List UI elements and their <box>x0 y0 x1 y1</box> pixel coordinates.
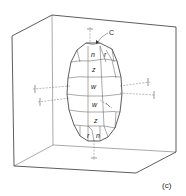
facet-label-top-n: n <box>91 51 95 58</box>
facet-label-bottom-n: n <box>96 132 100 139</box>
figure-caption: (c) <box>162 181 172 190</box>
facet-label-w-lower: w <box>92 101 98 108</box>
facet-label-top-r: r <box>104 51 107 58</box>
pointer-c: C <box>96 29 114 44</box>
pointer-label: C <box>109 29 114 36</box>
facet-label-w-upper: w <box>91 83 97 90</box>
bounding-box <box>12 15 176 173</box>
facet-label-z-lower: z <box>93 117 98 124</box>
facet-label-bottom-r: r <box>87 132 90 139</box>
crystal-diagram: C n r z w w z r n (c) <box>0 0 186 196</box>
facet-label-z-upper: z <box>91 66 96 73</box>
